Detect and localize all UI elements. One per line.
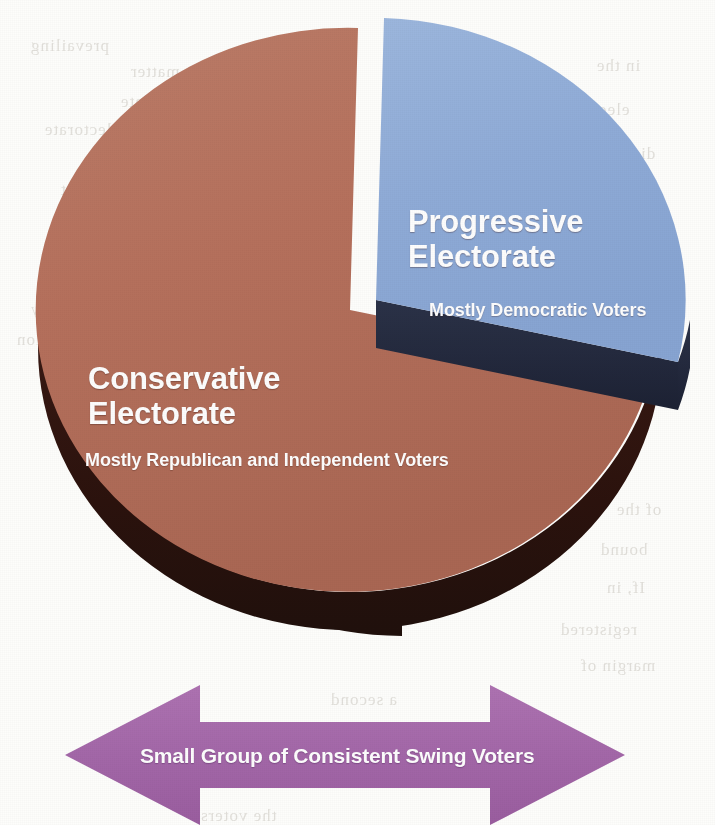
progressive-label-line2: Electorate bbox=[408, 240, 583, 275]
progressive-electorate-label: Progressive Electorate bbox=[408, 205, 583, 274]
conservative-electorate-sublabel: Mostly Republican and Independent Voters bbox=[85, 450, 449, 471]
figure-canvas: prevailingthe mattercandidateelectoratec… bbox=[0, 0, 715, 825]
conservative-electorate-label: Conservative Electorate bbox=[88, 362, 280, 431]
conservative-label-line2: Electorate bbox=[88, 397, 280, 432]
progressive-label-line1: Progressive bbox=[408, 205, 583, 240]
progressive-electorate-sublabel: Mostly Democratic Voters bbox=[429, 300, 646, 321]
swing-voters-arrow-label: Small Group of Consistent Swing Voters bbox=[140, 744, 535, 768]
conservative-label-line1: Conservative bbox=[88, 362, 280, 397]
